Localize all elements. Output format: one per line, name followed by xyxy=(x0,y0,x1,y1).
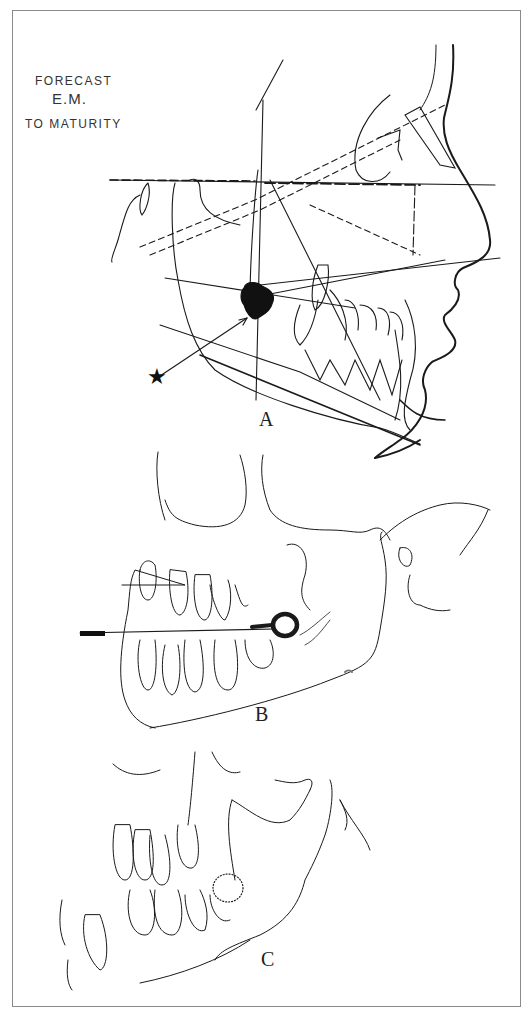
panel-c-drawing xyxy=(0,0,531,1017)
panel-label-c: C xyxy=(261,948,274,971)
